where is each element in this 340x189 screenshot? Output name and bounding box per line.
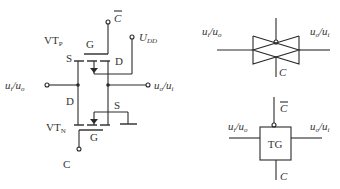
svg-text:uo/ui: uo/ui: [310, 25, 330, 39]
input-terminal: [45, 83, 49, 87]
bowtie-symbol: ui/uo uo/ui C: [202, 18, 330, 78]
svg-text:ui/uo: ui/uo: [5, 79, 25, 93]
vtn-label: VT: [46, 121, 61, 133]
svg-text:uo/ui: uo/ui: [310, 120, 330, 134]
svg-text:ui/uo: ui/uo: [202, 25, 222, 39]
svg-text:UDD: UDD: [139, 31, 157, 45]
c-bar-terminal: [106, 20, 110, 24]
pmos-drain-label: D: [115, 55, 123, 67]
c-bar-label: C: [114, 12, 122, 24]
udd-terminal: [130, 35, 134, 39]
svg-text:VTN: VTN: [46, 121, 66, 135]
tg-box-symbol: TG C C ui/uo uo/ui: [228, 97, 330, 182]
pmos-source-label: S: [66, 52, 72, 64]
pmos-body-arrow-icon: [90, 68, 98, 73]
nmos-drain-label: D: [66, 95, 74, 107]
svg-text:VTP: VTP: [44, 34, 63, 48]
tg-label: TG: [268, 138, 283, 150]
tg-c-bar-label: C: [280, 102, 288, 114]
cmos-circuit: C UDD VTP G S D ui/uo: [5, 11, 174, 170]
output-terminal: [146, 83, 150, 87]
nmos-body-arrow-icon: [90, 119, 98, 124]
tg-c-label: C: [280, 170, 288, 182]
pmos-gate-label: G: [86, 38, 94, 50]
nmos-gate-label: G: [90, 131, 98, 143]
svg-text:uo/ui: uo/ui: [154, 79, 174, 93]
c-label: C: [63, 158, 70, 170]
nmos-source-label: S: [114, 99, 120, 111]
bowtie-c-label: C: [279, 66, 287, 78]
vtp-label: VT: [44, 34, 59, 46]
svg-text:ui/uo: ui/uo: [228, 120, 248, 134]
transmission-gate-diagram: C UDD VTP G S D ui/uo: [0, 0, 340, 189]
